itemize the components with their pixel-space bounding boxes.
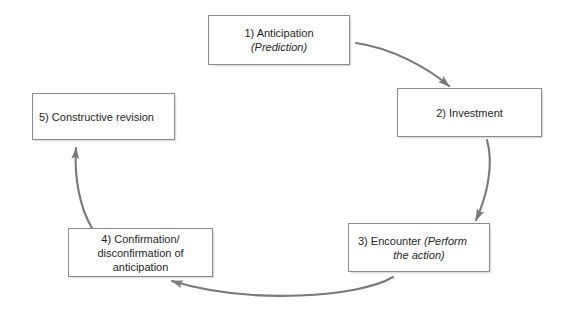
node-encounter-label: 3) Encounter	[358, 235, 424, 247]
node-encounter-line-1: 3) Encounter (Perform	[349, 234, 489, 248]
node-confirmation-line-2: disconfirmation of	[69, 246, 212, 260]
node-confirmation[interactable]: 4) Confirmation/ disconfirmation of anti…	[68, 228, 213, 277]
node-anticipation-line-2: (Prediction)	[209, 40, 349, 54]
node-encounter-line-2: the action)	[349, 248, 489, 262]
node-constructive-revision[interactable]: 5) Constructive revision	[32, 93, 175, 140]
node-encounter[interactable]: 3) Encounter (Perform the action)	[348, 223, 490, 272]
node-investment-line-1: 2) Investment	[398, 106, 541, 120]
node-anticipation[interactable]: 1) Anticipation (Prediction)	[208, 15, 350, 65]
edge-encounter-to-confirmation	[172, 277, 393, 296]
diagram-canvas: 1) Anticipation (Prediction) 2) Investme…	[0, 0, 575, 315]
edge-investment-to-encounter	[476, 140, 490, 220]
node-anticipation-line-1: 1) Anticipation	[209, 26, 349, 40]
edge-confirmation-to-revision	[76, 148, 92, 228]
node-constructive-revision-line-1: 5) Constructive revision	[33, 110, 174, 124]
node-investment[interactable]: 2) Investment	[397, 88, 542, 137]
node-encounter-emphasis-1: (Perform	[424, 235, 467, 247]
node-confirmation-line-1: 4) Confirmation/	[69, 232, 212, 246]
node-confirmation-line-3: anticipation	[69, 260, 212, 274]
edge-anticipation-to-investment	[356, 43, 449, 86]
